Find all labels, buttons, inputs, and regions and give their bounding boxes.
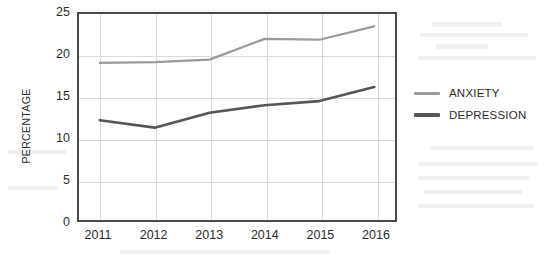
x-axis-tick-2012: 2012 [140, 228, 168, 242]
y-axis-tick-5: 5 [40, 173, 70, 187]
x-axis-tick-2013: 2013 [195, 228, 223, 242]
legend-item-anxiety[interactable]: ANXIETY [414, 82, 540, 104]
x-axis-tick-2014: 2014 [251, 228, 279, 242]
legend-item-depression[interactable]: DEPRESSION [414, 104, 540, 126]
x-axis-tick-2016: 2016 [362, 228, 390, 242]
y-axis-tick-15: 15 [40, 89, 70, 103]
y-axis-tick-25: 25 [40, 5, 70, 19]
series-line-depression [100, 87, 375, 128]
x-axis-tick-2011: 2011 [85, 228, 112, 242]
legend-label-anxiety: ANXIETY [449, 87, 500, 99]
y-axis-tick-20: 20 [40, 47, 70, 61]
chart-legend: ANXIETYDEPRESSION [414, 82, 540, 126]
line-chart: PERCENTAGE 0510152025 201120122013201420… [0, 0, 547, 265]
series-lines [79, 14, 395, 221]
y-axis-tick-10: 10 [40, 131, 70, 145]
legend-swatch-anxiety [414, 92, 440, 95]
legend-label-depression: DEPRESSION [449, 109, 526, 121]
x-axis-tick-labels: 201120122013201420152016 [77, 228, 397, 246]
y-axis-tick-0: 0 [40, 215, 70, 229]
y-axis-title-label: PERCENTAGE [20, 88, 32, 163]
legend-swatch-depression [414, 113, 440, 117]
x-axis-tick-2015: 2015 [306, 228, 334, 242]
y-axis-title: PERCENTAGE [18, 78, 34, 174]
plot-area [77, 12, 397, 222]
y-axis-tick-labels: 0510152025 [40, 12, 70, 222]
series-line-anxiety [100, 26, 375, 62]
